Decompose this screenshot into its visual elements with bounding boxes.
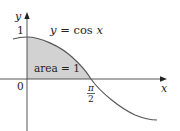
- origin-label: 0: [17, 80, 24, 92]
- curve-label-eq: = cos: [57, 23, 97, 37]
- x-axis-label: x: [161, 82, 168, 95]
- y-axis-label: y: [14, 10, 22, 23]
- curve-label: y = cos x: [49, 23, 103, 37]
- x-tick-numerator: π: [87, 83, 95, 93]
- x-tick-denominator: 2: [88, 94, 94, 104]
- x-axis-arrow-icon: [160, 76, 167, 81]
- curve-label-x: x: [96, 23, 103, 37]
- cosine-area-diagram: y 1 y = cos x area = 1 0 π 2 x: [0, 0, 180, 131]
- area-label: area = 1: [34, 62, 80, 74]
- y-axis-arrow-icon: [24, 12, 29, 19]
- y-tick-label-one: 1: [17, 24, 24, 37]
